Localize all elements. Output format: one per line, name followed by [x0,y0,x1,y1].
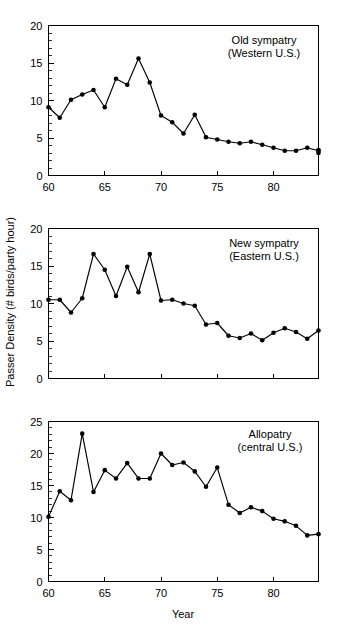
data-point-marker [192,112,197,117]
x-tick-label: 70 [155,181,167,193]
y-tick-label: 5 [36,335,42,347]
data-point-marker [294,524,299,529]
panel-annotation-line1: New sympatry [229,237,299,249]
data-point-marker [282,326,287,331]
data-point-marker [147,476,152,481]
passer-density-figure: Passer Density (# birds/party hour) 0510… [0,0,337,640]
data-point-marker [249,331,254,336]
series-line [49,59,319,154]
y-tick-label: 10 [30,95,42,107]
data-point-marker [159,298,164,303]
data-point-marker [181,460,186,465]
x-axis-label: Year [172,608,195,620]
y-tick-label: 25 [30,416,42,428]
x-tick-label: 65 [99,181,111,193]
x-tick-label: 65 [99,587,111,599]
data-point-marker [114,476,119,481]
data-point-marker [237,511,242,516]
data-point-marker [91,490,96,495]
panel-annotation-line2: (Western U.S.) [228,47,301,59]
data-point-marker [170,297,175,302]
x-axis-ticks [49,374,274,379]
y-tick-label: 5 [36,132,42,144]
data-point-marker [102,267,107,272]
data-point-marker [57,489,62,494]
y-tick-label: 5 [36,544,42,556]
data-series [46,56,321,155]
x-tick-label: 60 [42,181,54,193]
y-axis-tick-labels: 0510152025 [30,416,42,588]
data-point-marker [260,338,265,343]
data-point-marker [80,296,85,301]
y-tick-label: 20 [30,448,42,460]
y-tick-label: 0 [36,373,42,385]
data-point-marker [271,145,276,150]
panel-old-sympatry: 05101520 6065707580 Old sympatry (Wester… [0,0,337,200]
data-point-marker [46,297,51,302]
x-tick-label: 75 [211,181,223,193]
data-point-marker [181,131,186,136]
data-point-marker [91,252,96,257]
panel-annotation-line1: Allopatry [249,428,292,440]
data-point-marker [282,519,287,524]
data-point-marker [125,82,130,87]
data-point-marker [192,469,197,474]
data-point-marker [271,330,276,335]
y-tick-label: 15 [30,480,42,492]
data-point-marker [316,328,321,333]
y-axis-ticks [49,229,54,379]
x-tick-label: 80 [267,181,279,193]
y-tick-label: 10 [30,512,42,524]
x-axis-tick-labels: 6065707580 [42,587,279,599]
y-tick-label: 20 [30,223,42,235]
panel-annotation-line2: (central U.S.) [238,441,303,453]
data-point-marker [249,139,254,144]
data-point-marker [114,76,119,81]
data-point-marker [69,310,74,315]
data-point-marker [260,509,265,514]
data-point-marker [294,148,299,153]
y-axis-tick-labels: 05101520 [30,223,42,385]
x-tick-label: 75 [211,587,223,599]
data-point-marker [102,105,107,110]
data-point-marker [170,463,175,468]
data-point-marker [69,498,74,503]
data-point-marker [215,465,220,470]
data-point-marker [147,80,152,85]
data-point-marker [226,139,231,144]
panel-new-sympatry: 05101520 New sympatry (Eastern U.S.) [0,203,337,403]
data-point-marker [80,431,85,436]
data-point-marker [69,97,74,102]
data-point-marker [136,290,141,295]
data-point-marker [305,145,310,150]
data-point-marker [260,142,265,147]
y-axis-ticks [49,422,54,582]
x-axis-tick-labels: 6065707580 [42,181,279,193]
panel-annotation-line2: (Eastern U.S.) [229,250,299,262]
y-tick-label: 15 [30,57,42,69]
data-point-marker [271,516,276,521]
x-tick-label: 70 [155,587,167,599]
data-point-marker [249,505,254,510]
data-point-marker [91,88,96,93]
data-point-marker [159,113,164,118]
series-line [49,254,319,340]
data-point-marker [46,515,51,520]
data-point-marker [170,120,175,125]
data-point-marker [316,148,321,153]
x-tick-label: 60 [42,587,54,599]
data-point-marker [204,322,209,327]
data-point-marker [57,115,62,120]
data-point-marker [136,476,141,481]
y-tick-label: 15 [30,260,42,272]
x-axis-ticks [49,577,274,582]
data-point-marker [215,321,220,326]
data-point-marker [125,461,130,466]
data-point-marker [159,451,164,456]
data-point-marker [215,137,220,142]
panel-annotation-line1: Old sympatry [232,34,297,46]
data-point-marker [136,56,141,61]
data-point-marker [125,264,130,269]
data-point-marker [305,533,310,538]
chart-svg-old-sympatry: 05101520 6065707580 Old sympatry (Wester… [0,0,337,200]
